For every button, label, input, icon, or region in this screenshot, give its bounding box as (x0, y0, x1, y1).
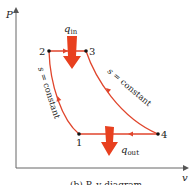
state-point-2 (47, 49, 51, 53)
state-label-3: 3 (89, 46, 95, 57)
state-point-4 (156, 132, 160, 136)
heat-out-label: qout (121, 144, 139, 157)
heat-in-label: qin (64, 23, 78, 36)
heat-out-arrow-icon (101, 126, 118, 156)
state-point-1 (77, 132, 81, 136)
state-label-4: 4 (161, 129, 167, 140)
x-axis-label: v (182, 172, 188, 183)
isentropic-label-1-2: s = constant (36, 66, 62, 121)
y-axis-label: P (5, 9, 13, 20)
isentropic-label-3-4: s = constant (106, 66, 154, 109)
state-label-1: 1 (76, 137, 82, 148)
process-3-4 (86, 51, 158, 134)
diagram-caption: (b) P–v diagram (70, 180, 143, 185)
process-2-3-arrow-icon (63, 49, 68, 54)
pv-diagram: P v 1 2 3 4 s = constant s = constant qi… (0, 0, 191, 185)
state-label-2: 2 (39, 46, 45, 57)
state-point-3 (84, 49, 88, 53)
process-4-1-arrow-icon (128, 132, 133, 137)
heat-in-arrow-icon (63, 36, 81, 69)
